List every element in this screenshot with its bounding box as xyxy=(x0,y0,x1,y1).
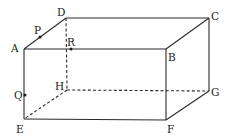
labels: A B C D E F G H P R Q xyxy=(10,6,219,135)
label-D: D xyxy=(57,6,65,18)
label-P: P xyxy=(34,24,41,36)
label-B: B xyxy=(168,51,176,63)
edge-EF xyxy=(24,119,166,120)
hidden-edges xyxy=(24,18,209,119)
edge-DA xyxy=(24,18,66,49)
cuboid-diagram: A B C D E F G H P R Q xyxy=(0,0,229,137)
label-G: G xyxy=(211,86,219,98)
label-C: C xyxy=(211,10,219,22)
edge-HG xyxy=(67,90,209,91)
label-Q: Q xyxy=(14,89,23,101)
label-F: F xyxy=(167,123,174,135)
label-E: E xyxy=(16,123,24,135)
label-R: R xyxy=(67,36,76,48)
point-Q-dot xyxy=(24,94,27,97)
edge-DH xyxy=(66,18,67,90)
edge-HE xyxy=(24,90,67,119)
marked-points xyxy=(24,36,73,97)
label-A: A xyxy=(10,42,19,54)
edge-FG xyxy=(166,91,209,120)
edge-BC xyxy=(166,18,209,49)
visible-edges xyxy=(24,18,209,120)
label-H: H xyxy=(55,80,64,92)
